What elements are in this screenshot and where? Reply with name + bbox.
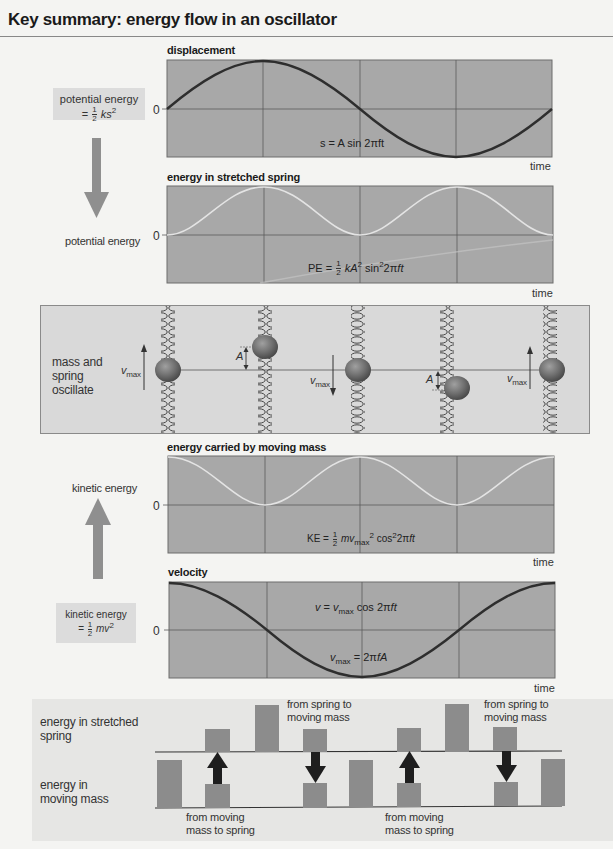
down-arrow-icon	[496, 751, 517, 782]
up-arrow-icon	[399, 751, 420, 783]
spring-to-mass-2-line1: from spring to	[484, 698, 548, 711]
spring-to-mass-2-line2: moving mass	[484, 711, 548, 724]
spring-to-mass-label-1: from spring to moving mass	[287, 698, 351, 724]
mass-to-spring-label-2: from moving mass to spring	[385, 811, 454, 837]
up-arrow-icon	[207, 752, 228, 784]
mass-to-spring-2-line1: from moving	[385, 811, 454, 824]
spring-to-mass-label-2: from spring to moving mass	[484, 698, 548, 724]
mass-to-spring-label-1: from moving mass to spring	[186, 811, 255, 837]
down-arrow-icon	[305, 752, 326, 783]
spring-to-mass-1-line2: moving mass	[287, 711, 351, 724]
mass-to-spring-2-line2: mass to spring	[385, 824, 454, 837]
mass-to-spring-1-line1: from moving	[186, 811, 255, 824]
spring-to-mass-1-line1: from spring to	[287, 698, 351, 711]
mass-to-spring-1-line2: mass to spring	[186, 824, 255, 837]
